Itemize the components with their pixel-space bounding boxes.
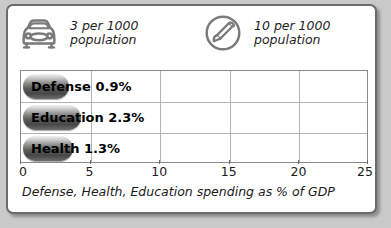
phone-icon	[200, 10, 246, 56]
x-tick-label: 25	[357, 164, 373, 179]
infographic-card: 3 per 1000 population 10 per 1000 popula…	[6, 4, 377, 214]
bar-row: Health 1.3%	[21, 133, 367, 163]
car-icon	[16, 10, 62, 56]
bar-label-education: Education 2.3%	[31, 102, 144, 133]
x-tick-label: 10	[151, 164, 167, 179]
bar-label-defense: Defense 0.9%	[31, 71, 131, 102]
x-tick-label: 5	[86, 164, 94, 179]
bar-chart: Defense 0.9%Education 2.3%Health 1.3% 05…	[20, 70, 368, 210]
x-tick-label: 20	[290, 164, 306, 179]
bar-row: Education 2.3%	[21, 102, 367, 133]
legend-label-cars: 3 per 1000 population	[70, 19, 138, 47]
chart-caption: Defense, Health, Education spending as %…	[22, 184, 335, 199]
legend-item-phones: 10 per 1000 population	[200, 10, 330, 56]
plot-area: Defense 0.9%Education 2.3%Health 1.3%	[20, 70, 368, 163]
legend-item-cars: 3 per 1000 population	[16, 10, 138, 56]
legend-label-phones: 10 per 1000 population	[254, 19, 330, 47]
icon-legend: 3 per 1000 population 10 per 1000 popula…	[8, 10, 375, 66]
bar-label-health: Health 1.3%	[31, 133, 120, 163]
bar-row: Defense 0.9%	[21, 71, 367, 102]
x-tick-label: 0	[19, 164, 27, 179]
x-axis: 0510152025	[20, 164, 368, 182]
x-tick-label: 15	[221, 164, 237, 179]
